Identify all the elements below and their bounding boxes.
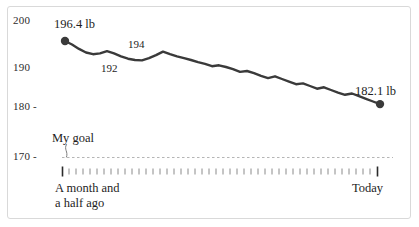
goal-leader-line	[66, 145, 67, 158]
trough-weight-label: 192	[101, 62, 118, 74]
y-tick-dash: -	[33, 150, 37, 162]
y-tick-label-200: 200	[13, 14, 30, 26]
x-axis-tick-row	[69, 169, 370, 175]
end-point-marker	[376, 100, 384, 108]
start-weight-label: 196.4 lb	[54, 17, 95, 32]
y-tick-dash: -	[33, 100, 37, 112]
start-point-marker	[61, 37, 69, 45]
y-tick-label-190: 190	[13, 61, 30, 73]
y-tick-value: 200	[13, 14, 30, 26]
x-axis-start-caption: A month and a half ago	[55, 181, 120, 211]
y-tick-label-180: 180 -	[13, 100, 37, 112]
y-tick-label-170: 170 -	[13, 150, 37, 162]
x-axis-end-caption: Today	[352, 181, 383, 196]
y-tick-value: 190	[13, 61, 30, 73]
peak-weight-label: 194	[128, 38, 145, 50]
y-tick-value: 180	[13, 100, 30, 112]
y-tick-value: 170	[13, 150, 30, 162]
end-weight-label: 182.1 lb	[355, 84, 396, 99]
goal-annotation-label: My goal	[52, 131, 94, 146]
